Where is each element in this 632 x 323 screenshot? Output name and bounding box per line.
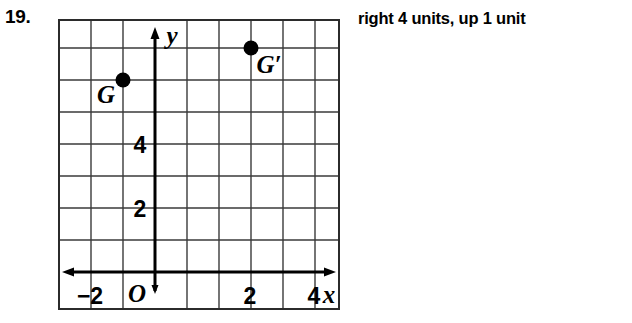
point-marker-G bbox=[116, 73, 131, 88]
x-tick-label-2: 2 bbox=[244, 283, 257, 309]
y-axis-label: y bbox=[163, 22, 178, 49]
x-tick-label-4: 4 bbox=[308, 283, 321, 309]
x-tick-label--2: −2 bbox=[77, 283, 103, 309]
answer-text: right 4 units, up 1 unit bbox=[358, 9, 526, 28]
coordinate-grid-figure: −2 2 4 2 4 O x y G G′ bbox=[58, 19, 340, 310]
problem-number: 19. bbox=[5, 6, 31, 28]
point-label-G: G bbox=[97, 81, 115, 108]
y-tick-label-4: 4 bbox=[134, 132, 147, 158]
x-axis-label: x bbox=[322, 281, 336, 308]
coordinate-plane-svg: −2 2 4 2 4 O x y G G′ bbox=[58, 19, 340, 310]
y-tick-label-2: 2 bbox=[134, 196, 147, 222]
plot-background bbox=[58, 19, 340, 310]
worksheet-problem: 19. bbox=[0, 0, 632, 323]
point-label-G-prime: G′ bbox=[256, 51, 281, 78]
origin-label: O bbox=[128, 280, 146, 307]
